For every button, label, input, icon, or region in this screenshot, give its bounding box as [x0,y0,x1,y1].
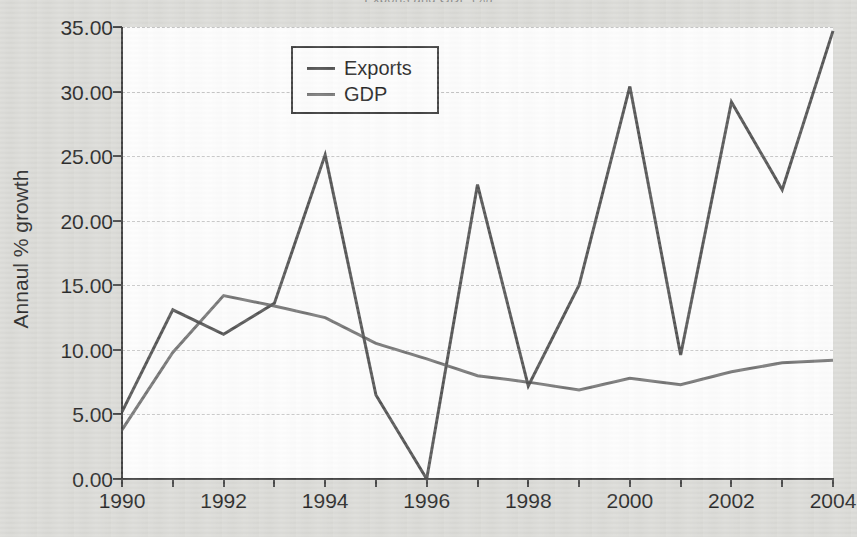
y-tick-label: 20.00 [33,211,113,232]
legend-line-swatch-icon [307,93,335,96]
y-tick-label: 5.00 [33,404,113,425]
gridline [122,92,833,93]
chart-title: Exports and GDP (%) [0,0,857,2]
x-tick-label: 1990 [99,490,146,511]
y-axis-line [121,27,123,480]
legend-label: Exports [344,58,412,78]
y-tick-label: 0.00 [33,469,113,490]
x-tick-mark [527,479,529,487]
legend-entry[interactable]: Exports [307,55,437,81]
x-tick-label: 1992 [200,490,247,511]
x-tick-mark [730,479,732,487]
x-tick-mark [273,479,275,487]
x-tick-mark [121,479,123,487]
x-tick-mark [781,479,783,487]
legend-line-swatch-icon [307,67,335,70]
gridline [122,350,833,351]
gridline [122,221,833,222]
x-tick-mark [477,479,479,487]
x-tick-mark [324,479,326,487]
plot-area [122,27,833,479]
gridline [122,285,833,286]
x-tick-label: 1998 [505,490,552,511]
x-tick-mark [426,479,428,487]
x-tick-mark [375,479,377,487]
x-tick-label: 2002 [708,490,755,511]
y-tick-label: 25.00 [33,146,113,167]
legend-entry[interactable]: GDP [307,81,437,107]
x-tick-label: 1994 [302,490,349,511]
x-tick-mark [832,479,834,487]
x-tick-mark [629,479,631,487]
chart-legend: ExportsGDP [291,46,439,114]
x-tick-label: 1996 [403,490,450,511]
y-tick-label: 30.00 [33,82,113,103]
y-tick-label: 15.00 [33,275,113,296]
y-axis-title: Annaul % growth [9,134,33,364]
x-tick-label: 2000 [606,490,653,511]
x-axis-line [121,478,834,480]
x-tick-mark [578,479,580,487]
y-tick-label: 35.00 [33,17,113,38]
line-chart-figure: Exports and GDP (%) 0.005.0010.0015.0020… [0,0,857,537]
legend-label: GDP [344,84,387,104]
x-tick-mark [172,479,174,487]
gridline [122,27,833,28]
x-tick-label: 2004 [810,490,857,511]
x-tick-mark [680,479,682,487]
gridline [122,414,833,415]
gridline [122,156,833,157]
y-tick-label: 10.00 [33,340,113,361]
x-tick-mark [223,479,225,487]
